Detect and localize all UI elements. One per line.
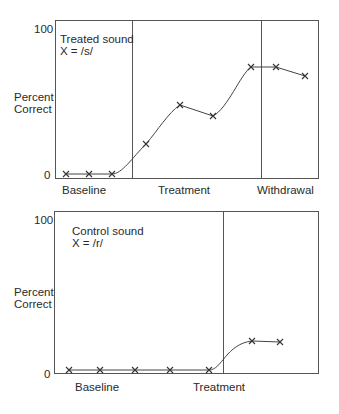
top-y-tick-100: 100 bbox=[34, 23, 53, 35]
bottom-y-label-line2: Correct bbox=[14, 298, 53, 310]
top-chart-title: Treated sound bbox=[60, 33, 134, 45]
top-data-line bbox=[66, 67, 305, 174]
bottom-y-label-line1: Percent bbox=[14, 286, 54, 298]
top-y-tick-0: 0 bbox=[44, 169, 50, 181]
figure: 100 0 Percent Correct Treated sound X = … bbox=[0, 0, 339, 414]
bottom-phase-label-treatment: Treatment bbox=[193, 381, 246, 393]
top-y-label-line2: Correct bbox=[14, 103, 53, 115]
bottom-chart-subtitle: X = /r/ bbox=[72, 237, 104, 249]
top-phase-label-baseline: Baseline bbox=[62, 184, 106, 196]
top-data-markers bbox=[63, 64, 308, 177]
bottom-chart: 100 0 Percent Correct Control sound X = … bbox=[14, 212, 319, 394]
bottom-phase-label-baseline: Baseline bbox=[75, 381, 119, 393]
top-phase-label-treatment: Treatment bbox=[158, 184, 211, 196]
top-phase-label-withdrawal: Withdrawal bbox=[257, 184, 314, 196]
bottom-chart-title: Control sound bbox=[72, 225, 144, 237]
bottom-y-tick-100: 100 bbox=[34, 214, 53, 226]
bottom-data-markers bbox=[66, 338, 283, 373]
bottom-data-line bbox=[69, 341, 280, 370]
top-chart-subtitle: X = /s/ bbox=[60, 45, 94, 57]
top-y-label-line1: Percent bbox=[14, 91, 54, 103]
bottom-y-tick-0: 0 bbox=[44, 368, 50, 380]
top-chart: 100 0 Percent Correct Treated sound X = … bbox=[14, 21, 319, 197]
